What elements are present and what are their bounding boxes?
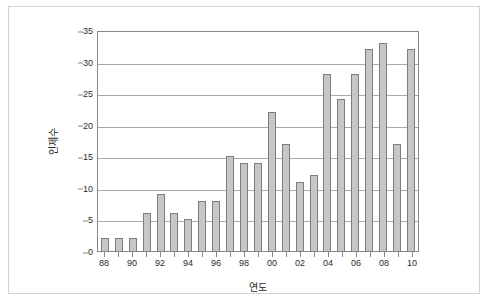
x-tick-mark	[412, 252, 413, 257]
y-tick-label: 10	[83, 184, 93, 193]
bar	[212, 201, 220, 252]
x-tick-label: 96	[209, 259, 223, 271]
x-axis-title: 연도	[97, 279, 419, 294]
x-tick-mark	[160, 252, 161, 257]
chart-figure-frame: 인제수 05101520253035 88 90 92 94 96 98 00 …	[8, 6, 480, 294]
x-tick-mark	[216, 252, 217, 257]
x-axis-tick-labels: 88 90 92 94 96 98 00 02 04 06 08 10	[97, 259, 419, 271]
y-tick-mark	[78, 94, 83, 95]
y-tick-mark	[83, 220, 88, 221]
y-tick-label: 20	[83, 121, 93, 130]
x-tick-mark	[244, 252, 245, 257]
y-tick-label: 5	[88, 216, 93, 225]
y-axis-tick-labels: 05101520253035	[67, 31, 93, 252]
bar	[198, 201, 206, 252]
x-tick-label-empty	[391, 259, 405, 271]
x-tick-mark	[258, 252, 259, 257]
bar	[337, 99, 345, 251]
bar	[184, 219, 192, 251]
x-tick-mark	[174, 252, 175, 257]
x-tick-mark	[328, 252, 329, 257]
y-tick-mark	[78, 189, 83, 190]
y-tick-mark	[78, 63, 83, 64]
x-tick-mark	[132, 252, 133, 257]
x-tick-label-empty	[167, 259, 181, 271]
x-tick-label: 04	[321, 259, 335, 271]
bar	[407, 49, 415, 251]
bar	[254, 163, 262, 251]
x-axis-tick-marks	[97, 252, 419, 257]
bar	[393, 144, 401, 251]
bar	[310, 175, 318, 251]
x-tick-label: 10	[405, 259, 419, 271]
bar	[240, 163, 248, 251]
x-tick-mark	[272, 252, 273, 257]
x-tick-label: 06	[349, 259, 363, 271]
x-tick-label-empty	[363, 259, 377, 271]
bar	[323, 74, 331, 251]
x-tick-mark	[370, 252, 371, 257]
x-tick-mark	[356, 252, 357, 257]
bar	[379, 43, 387, 251]
x-tick-label-empty	[251, 259, 265, 271]
y-tick-mark	[83, 252, 88, 253]
y-tick-mark	[78, 31, 83, 32]
bar	[170, 213, 178, 251]
y-tick-label: 0	[88, 248, 93, 257]
bar	[115, 238, 123, 251]
bar	[101, 238, 109, 251]
y-tick-mark	[78, 126, 83, 127]
x-tick-label-empty	[195, 259, 209, 271]
y-tick-label: 15	[83, 153, 93, 162]
x-tick-label: 08	[377, 259, 391, 271]
x-tick-mark	[202, 252, 203, 257]
y-tick-label: 30	[83, 58, 93, 67]
y-tick-label: 35	[83, 27, 93, 36]
x-tick-mark	[286, 252, 287, 257]
y-tick-mark	[78, 157, 83, 158]
y-tick-label: 25	[83, 90, 93, 99]
x-tick-mark	[342, 252, 343, 257]
y-axis-title-label: 인제수	[45, 128, 60, 155]
x-tick-mark	[230, 252, 231, 257]
bar	[365, 49, 373, 251]
bar	[157, 194, 165, 251]
x-tick-label: 94	[181, 259, 195, 271]
x-tick-label: 00	[265, 259, 279, 271]
bar	[296, 182, 304, 251]
x-tick-label: 02	[293, 259, 307, 271]
x-tick-label: 90	[125, 259, 139, 271]
x-tick-mark	[146, 252, 147, 257]
bar	[226, 156, 234, 251]
x-tick-label-empty	[111, 259, 125, 271]
x-tick-mark	[104, 252, 105, 257]
bar-series	[98, 32, 418, 251]
x-tick-label-empty	[335, 259, 349, 271]
x-tick-label-empty	[223, 259, 237, 271]
x-tick-label: 88	[97, 259, 111, 271]
y-axis-title: 인제수	[45, 31, 59, 252]
bar	[129, 238, 137, 251]
x-tick-label-empty	[279, 259, 293, 271]
plot-area	[97, 31, 419, 252]
x-tick-mark	[398, 252, 399, 257]
x-tick-mark	[188, 252, 189, 257]
x-tick-mark	[118, 252, 119, 257]
x-tick-mark	[314, 252, 315, 257]
bar	[143, 213, 151, 251]
x-tick-label-empty	[307, 259, 321, 271]
bar	[351, 74, 359, 251]
x-tick-mark	[384, 252, 385, 257]
bar	[268, 112, 276, 251]
x-tick-label: 92	[153, 259, 167, 271]
x-tick-label-empty	[139, 259, 153, 271]
x-tick-mark	[300, 252, 301, 257]
bar	[282, 144, 290, 251]
x-tick-label: 98	[237, 259, 251, 271]
